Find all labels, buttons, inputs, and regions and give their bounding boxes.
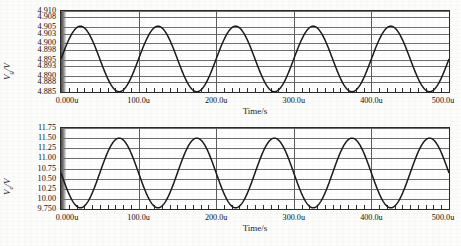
chart-panel-vg: Vg/V 4.8854.8884.8904.8934.8954.8984.900… — [0, 2, 461, 114]
y-axis-tick-label: 4.905 — [38, 23, 56, 31]
y-axis-tick-label: 4.910 — [38, 7, 56, 15]
y-axis-tick-label: 11.75 — [38, 124, 56, 132]
y-axis-label-ve: Ve/V — [2, 178, 15, 195]
y-axis-tick-label: 4.895 — [38, 55, 56, 63]
y-axis-tick-label: 4.890 — [38, 72, 56, 80]
y-axis-tick-labels-vg: 4.8854.8884.8904.8934.8954.8984.9004.903… — [24, 10, 56, 93]
y-axis-tick-label: 11.50 — [38, 134, 56, 142]
x-axis-tick-label: 200.0u — [205, 96, 228, 105]
x-axis-tick-label: 200.0u — [205, 213, 228, 222]
grid-line-horizontal — [61, 209, 449, 210]
x-axis-tick-label: 300.0u — [283, 96, 306, 105]
x-axis-tick-label: 500.0u — [432, 96, 455, 105]
x-axis-tick-label: 300.0u — [283, 213, 306, 222]
y-axis-tick-label: 10.50 — [38, 175, 56, 183]
y-axis-label-vg: Vg/V — [2, 63, 15, 80]
x-axis-tick-label: 100.0u — [127, 96, 150, 105]
x-axis-tick-label: 0.000u — [56, 213, 79, 222]
y-axis-tick-label: 11.00 — [38, 154, 56, 162]
x-axis-tick-label: 500.0u — [432, 213, 455, 222]
grid-line-horizontal — [61, 92, 449, 93]
oscilloscope-figure: Vg/V 4.8854.8884.8904.8934.8954.8984.900… — [0, 0, 461, 246]
x-axis-tick-label: 100.0u — [127, 213, 150, 222]
waveform-trace — [61, 11, 449, 92]
y-axis-tick-label: 11.25 — [38, 144, 56, 152]
chart-panel-ve: Ve/V 9.75010.0010.2510.5010.7511.0011.25… — [0, 119, 461, 246]
x-axis-tick-label: 400.0u — [360, 96, 383, 105]
y-axis-tick-label: 10.25 — [38, 185, 56, 193]
x-axis-title-vg: Time/s — [60, 106, 450, 116]
x-axis-title-ve: Time/s — [60, 223, 450, 233]
plot-area-vg — [60, 10, 450, 93]
y-axis-tick-label: 10.75 — [38, 164, 56, 172]
y-axis-tick-label: 10.00 — [38, 195, 56, 203]
plot-area-ve — [60, 127, 450, 210]
x-axis-tick-label: 0.000u — [56, 96, 79, 105]
y-axis-tick-label: 4.900 — [38, 39, 56, 47]
y-axis-tick-label: 9.750 — [38, 205, 56, 213]
y-axis-tick-label: 4.885 — [38, 88, 56, 96]
y-axis-tick-labels-ve: 9.75010.0010.2510.5010.7511.0011.2511.50… — [22, 127, 56, 210]
waveform-trace — [61, 128, 449, 209]
x-axis-tick-label: 400.0u — [360, 213, 383, 222]
